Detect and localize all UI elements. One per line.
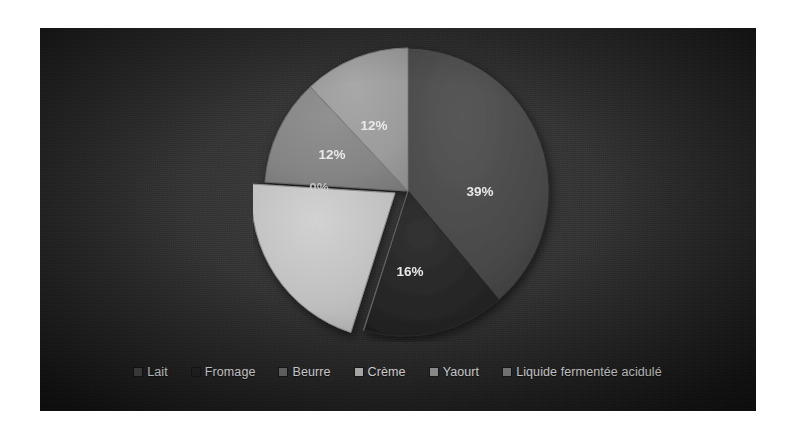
legend-swatch-icon bbox=[134, 368, 142, 376]
legend-item-fromage[interactable]: Fromage bbox=[192, 365, 256, 379]
legend-swatch-icon bbox=[355, 368, 363, 376]
pie-label-fromage: 16% bbox=[396, 264, 423, 279]
pie-label-beurre: 0% bbox=[309, 180, 329, 195]
chart-panel: 39% 16% 21% 0% 12% 12% Lait Fromage Beur… bbox=[40, 28, 756, 411]
legend-swatch-icon bbox=[192, 368, 200, 376]
legend-swatch-icon bbox=[503, 368, 511, 376]
pie-label-yaourt: 12% bbox=[360, 118, 387, 133]
pie-label-lait: 39% bbox=[466, 184, 493, 199]
legend-item-liquide-fermentee-acidule[interactable]: Liquide fermentée acidulé bbox=[503, 365, 662, 379]
legend-item-creme[interactable]: Crème bbox=[355, 365, 406, 379]
pie-label-creme: 21% bbox=[305, 224, 332, 239]
legend-item-label: Crème bbox=[368, 365, 406, 379]
pie-chart-svg: 39% 16% 21% 0% 12% 12% bbox=[253, 40, 563, 342]
legend-item-lait[interactable]: Lait bbox=[134, 365, 168, 379]
legend-item-label: Liquide fermentée acidulé bbox=[516, 365, 662, 379]
pie-chart: 39% 16% 21% 0% 12% 12% bbox=[253, 40, 563, 342]
legend-item-label: Beurre bbox=[292, 365, 330, 379]
legend-swatch-icon bbox=[430, 368, 438, 376]
legend-item-label: Lait bbox=[147, 365, 168, 379]
legend-item-beurre[interactable]: Beurre bbox=[279, 365, 330, 379]
legend-item-label: Yaourt bbox=[443, 365, 480, 379]
pie-label-liquide-fermentee-acidule: 12% bbox=[318, 147, 345, 162]
chart-legend: Lait Fromage Beurre Crème Yaourt Liquide… bbox=[40, 365, 756, 379]
legend-swatch-icon bbox=[279, 368, 287, 376]
legend-item-yaourt[interactable]: Yaourt bbox=[430, 365, 480, 379]
legend-item-label: Fromage bbox=[205, 365, 256, 379]
